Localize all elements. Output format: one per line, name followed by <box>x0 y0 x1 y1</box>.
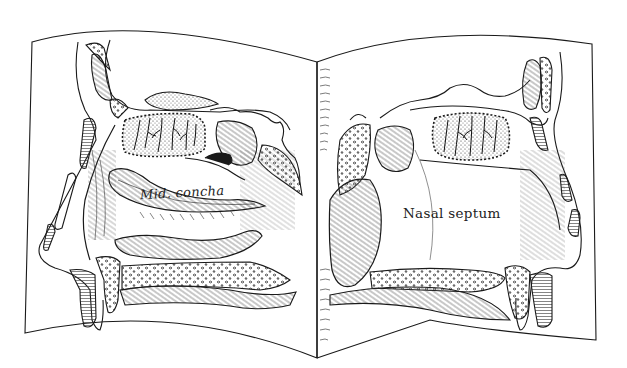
spine-shading <box>320 69 330 340</box>
right-section <box>329 52 581 330</box>
open-book-illustration: Mid. concha Nasal septum <box>0 0 627 368</box>
anatomy-drawing <box>0 0 627 368</box>
nasal-septum-label: Nasal septum <box>403 205 501 221</box>
